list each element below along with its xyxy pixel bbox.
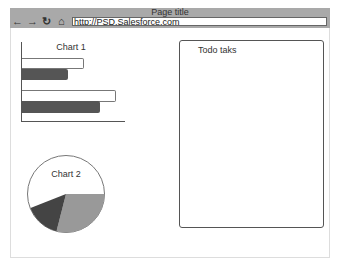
chart-title: Chart 2 [27,169,105,179]
back-arrow-icon[interactable]: ← [12,16,23,27]
browser-toolbar: Page title ← → ↻ ⌂ http://PSD.Salesforce… [10,8,330,28]
x-axis [21,121,125,122]
reload-icon[interactable]: ↻ [42,16,51,27]
todo-title: Todo taks [198,45,237,55]
forward-arrow-icon[interactable]: → [27,16,38,27]
pie-graphic [27,155,105,233]
bar-group2-series-b [22,101,100,113]
bar-group1-series-a [22,58,84,69]
chart-title: Chart 1 [21,42,121,52]
pie-chart: Chart 2 [27,155,105,233]
bar-chart: Chart 1 [21,42,125,122]
address-bar[interactable]: http://PSD.Salesforce.com [72,17,327,26]
bar-group1-series-b [22,69,68,80]
home-icon[interactable]: ⌂ [58,16,65,27]
todo-panel: Todo taks [179,40,324,228]
